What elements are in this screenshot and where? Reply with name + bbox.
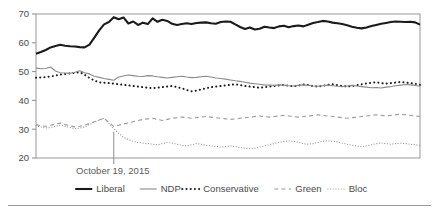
series-line-liberal	[36, 17, 420, 54]
chart-figure: 203040506070October 19, 2015LiberalNDPCo…	[0, 0, 439, 212]
series-line-bloc	[36, 118, 420, 149]
chart-legend: LiberalNDPConservativeGreenBloc	[75, 183, 367, 194]
series-line-conservative	[36, 72, 420, 91]
y-axis-tick-label: 30	[18, 124, 29, 135]
series-line-green	[36, 114, 420, 127]
y-axis-tick-label: 70	[18, 8, 29, 19]
event-marker-label: October 19, 2015	[76, 165, 149, 176]
line-chart-canvas: 203040506070October 19, 2015LiberalNDPCo…	[0, 0, 439, 212]
y-axis-tick-label: 40	[18, 95, 29, 106]
y-axis-tick-label: 50	[18, 66, 29, 77]
footer-divider	[8, 205, 431, 206]
legend-label-liberal[interactable]: Liberal	[96, 183, 125, 194]
legend-label-green[interactable]: Green	[295, 183, 321, 194]
plot-area-border	[36, 14, 420, 158]
y-axis-tick-label: 20	[18, 152, 29, 163]
y-axis-tick-label: 60	[18, 37, 29, 48]
legend-label-bloc[interactable]: Bloc	[349, 183, 368, 194]
legend-label-conservative[interactable]: Conservative	[203, 183, 258, 194]
legend-label-ndp[interactable]: NDP	[161, 183, 181, 194]
